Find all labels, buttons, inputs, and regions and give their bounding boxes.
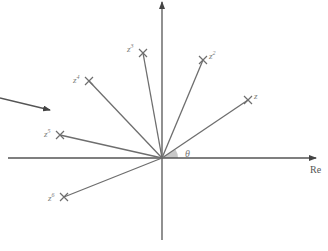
label-z3: z3 (127, 45, 134, 54)
ray-z6 (64, 158, 162, 197)
label-z5: z5 (44, 130, 51, 139)
ray-z3 (143, 53, 162, 158)
cross-marker-z2 (199, 56, 207, 64)
label-z2: z2 (209, 52, 216, 61)
real-axis-label: Re (310, 165, 321, 175)
pointer-arrow (0, 98, 50, 110)
ray-z4 (89, 81, 162, 158)
complex-plane-svg (0, 0, 328, 251)
label-z1: z (254, 92, 258, 101)
ray-z5 (60, 135, 162, 158)
ray-z2 (162, 60, 203, 158)
ray-z1 (162, 100, 248, 158)
cross-marker-z1 (244, 96, 252, 104)
label-z4: z4 (73, 76, 80, 85)
point-markers (56, 49, 252, 201)
cross-marker-z6 (60, 193, 68, 201)
label-z6: z6 (48, 194, 55, 203)
complex-plane-diagram: z z2 z3 z4 z5 z6 θ Re (0, 0, 328, 251)
angle-theta-label: θ (185, 149, 190, 159)
cross-marker-z4 (85, 77, 93, 85)
